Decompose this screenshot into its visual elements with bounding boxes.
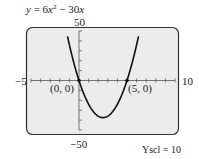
x-min-label: −5	[15, 76, 27, 87]
point-label-origin: (0, 0)	[50, 83, 74, 94]
yscl-label: Yscl = 10	[142, 145, 181, 155]
plot-area	[0, 0, 199, 159]
y-min-label: −50	[70, 139, 87, 150]
y-max-label: 50	[74, 17, 85, 28]
x-max-label: 10	[182, 76, 193, 87]
point-origin	[77, 79, 81, 83]
point-label-five-zero: (5, 0)	[128, 83, 152, 94]
